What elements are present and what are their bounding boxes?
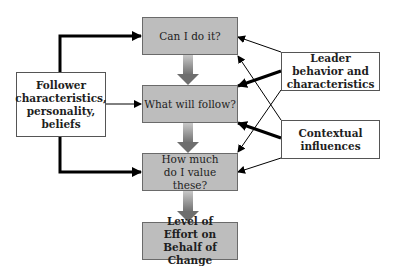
diagram-canvas: Can I do it? What will follow? How much …: [0, 0, 399, 273]
step-level-of-effort: Level of Effort on Behalf of Change: [142, 222, 238, 260]
step-what-will-follow: What will follow?: [142, 85, 238, 123]
step-label: What will follow?: [144, 98, 236, 111]
step-label: Can I do it?: [159, 30, 220, 43]
flow-arrow-1: [177, 55, 199, 85]
input-label: Follower characteristics, personality, b…: [15, 79, 106, 131]
follower-characteristics-box: Follower characteristics, personality, b…: [16, 72, 106, 137]
input-label: Leader behavior and characteristics: [285, 52, 376, 91]
context-to-follow-arrow: [238, 123, 281, 138]
leader-to-value-arrow: [238, 90, 281, 152]
step-can-i-do-it: Can I do it?: [142, 17, 238, 55]
input-label: Contextual influences: [298, 127, 363, 153]
context-to-value-arrow: [238, 158, 281, 172]
step-label: Level of Effort on Behalf of Change: [149, 215, 231, 267]
flow-arrow-2: [177, 123, 199, 153]
follower-to-can-arrow: [60, 36, 141, 72]
step-label: How much do I value these?: [157, 153, 223, 192]
context-to-can-arrow: [238, 56, 281, 120]
leader-behavior-box: Leader behavior and characteristics: [281, 52, 380, 91]
leader-to-can-arrow: [238, 37, 281, 52]
step-value: How much do I value these?: [142, 153, 238, 191]
follower-to-value-arrow: [60, 136, 141, 172]
leader-to-follow-arrow: [238, 71, 281, 86]
contextual-influences-box: Contextual influences: [281, 120, 380, 159]
